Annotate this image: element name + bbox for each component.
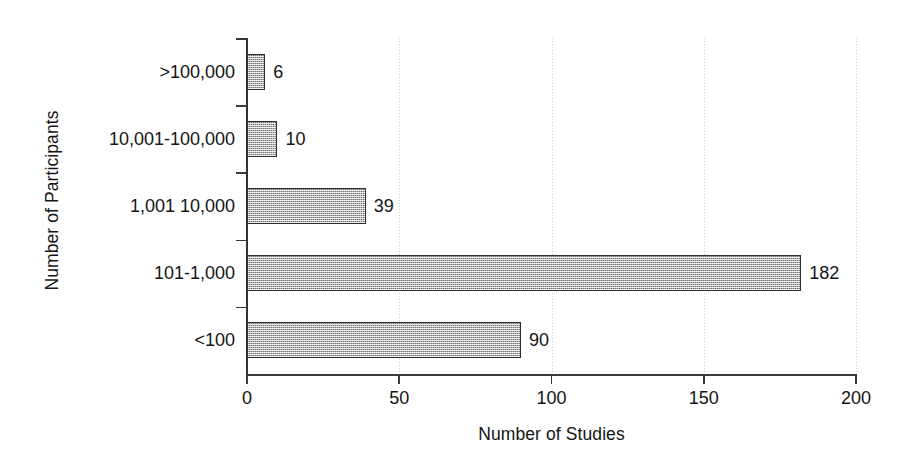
gridline — [552, 38, 553, 374]
bar-value-label: 182 — [809, 263, 839, 284]
bar-chart-figure: Number of Participants 050100150200 6103… — [0, 0, 916, 469]
x-tick — [246, 375, 248, 384]
bar-value-label: 6 — [273, 61, 283, 82]
category-label: 101-1,000 — [154, 263, 235, 284]
x-tick — [551, 375, 553, 384]
y-tick — [236, 172, 247, 174]
x-tick — [855, 375, 857, 384]
x-axis-title: Number of Studies — [247, 424, 856, 445]
bar: 90 — [247, 322, 521, 358]
x-tick-label: 0 — [212, 388, 282, 409]
bar: 10 — [247, 121, 277, 157]
bar-value-label: 39 — [374, 196, 394, 217]
category-label: <100 — [194, 330, 235, 351]
bar: 182 — [247, 255, 801, 291]
x-tick-label: 200 — [821, 388, 891, 409]
bar: 6 — [247, 54, 265, 90]
bar: 39 — [247, 188, 366, 224]
y-tick — [236, 307, 247, 309]
y-axis-top-cap — [236, 38, 247, 40]
category-label: 10,001-100,000 — [109, 128, 235, 149]
category-label: 1,001 10,000 — [130, 196, 235, 217]
x-tick-label: 50 — [364, 388, 434, 409]
plot-area: 050100150200 6103918290 >100,00010,001-1… — [247, 38, 856, 374]
bar-value-label: 90 — [529, 330, 549, 351]
x-tick-label: 150 — [669, 388, 739, 409]
y-axis-title: Number of Participants — [42, 61, 63, 341]
y-tick — [236, 105, 247, 107]
bar-value-label: 10 — [285, 128, 305, 149]
category-label: >100,000 — [159, 61, 235, 82]
x-tick — [398, 375, 400, 384]
x-tick — [703, 375, 705, 384]
x-tick-label: 100 — [517, 388, 587, 409]
y-tick — [236, 240, 247, 242]
gridline — [704, 38, 705, 374]
gridline — [856, 38, 857, 374]
